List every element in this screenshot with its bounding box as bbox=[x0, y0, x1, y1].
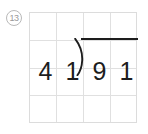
grid-line-horizontal-3 bbox=[30, 95, 136, 96]
divisor-digit-2: 1 bbox=[59, 57, 86, 85]
problem-number-badge: 13 bbox=[6, 10, 22, 26]
dividend-digit-1: 9 bbox=[86, 57, 113, 85]
answer-grid: 4 1 9 1 bbox=[29, 12, 137, 123]
long-division-worksheet-item: 13 4 1 9 1 bbox=[0, 0, 148, 134]
dividend-digit-2: 1 bbox=[113, 57, 140, 85]
division-vinculum-bar bbox=[81, 38, 138, 40]
divisor-digit-1: 4 bbox=[32, 57, 59, 85]
